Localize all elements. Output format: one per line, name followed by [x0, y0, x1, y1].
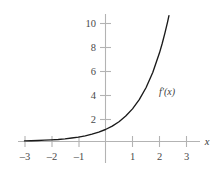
x-tick-label-neg1: –1: [73, 151, 85, 162]
y-tick-label-4: 4: [91, 90, 97, 101]
x-tick-label-neg2: –2: [46, 151, 58, 162]
x-axis-label: x: [204, 136, 210, 147]
y-tick-label-10: 10: [86, 18, 97, 29]
x-tick-label-2: 2: [157, 151, 162, 162]
y-tick-label-8: 8: [91, 42, 96, 53]
x-tick-label-1: 1: [130, 151, 135, 162]
curve-f-prime: [25, 16, 169, 141]
y-tick-label-2: 2: [91, 114, 96, 125]
figure-exponential-derivative-graph: –3 –2 –1 1 2 3 2 4 6 8 10 x f′(x): [0, 0, 219, 175]
x-tick-label-3: 3: [184, 151, 189, 162]
x-tick-label-neg3: –3: [19, 151, 31, 162]
curve-annotation-label: f′(x): [159, 86, 176, 98]
chart-canvas: –3 –2 –1 1 2 3 2 4 6 8 10 x f′(x): [0, 0, 219, 175]
y-tick-label-6: 6: [91, 66, 96, 77]
